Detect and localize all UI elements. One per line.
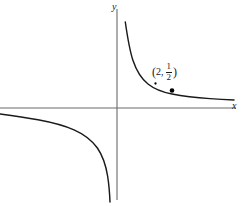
label-y-fraction: 1 2: [166, 62, 173, 82]
curve-upper-right-branch: [125, 22, 234, 100]
hyperbola-plot: [0, 0, 244, 206]
marked-point-label: ( 2 , 1 2 ): [152, 62, 177, 82]
marked-point-dot: [170, 88, 175, 93]
fraction-numerator: 1: [166, 62, 173, 71]
graph-figure: y x ( 2 , 1 2 ): [0, 0, 244, 206]
marked-point-leader-dot: [154, 82, 156, 84]
label-close-paren: ): [173, 66, 177, 78]
y-axis-label: y: [112, 2, 116, 12]
curve-lower-left-branch: [0, 114, 110, 202]
x-axis-label: x: [232, 101, 236, 111]
fraction-denominator: 2: [166, 73, 173, 82]
label-comma: ,: [161, 67, 164, 77]
